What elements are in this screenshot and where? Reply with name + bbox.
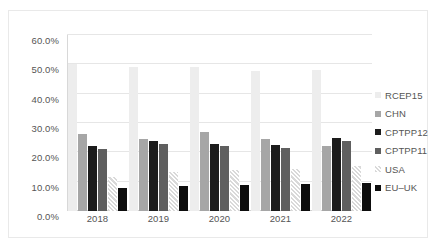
legend-label: CHN (385, 108, 406, 119)
legend-item-chn[interactable]: CHN (375, 106, 437, 122)
x-axis-tick-label-2022: 2022 (311, 213, 372, 231)
legend-item-usa[interactable]: USA (375, 161, 437, 177)
bars (311, 35, 372, 211)
bar-cptpp12-2019[interactable] (149, 141, 158, 211)
x-axis-tick-label-2020: 2020 (189, 213, 250, 231)
legend-swatch-cptpp12-icon (375, 129, 381, 135)
bar-rcep15-2019[interactable] (129, 67, 138, 211)
legend-swatch-chn-icon (375, 111, 381, 117)
bar-chn-2022[interactable] (322, 146, 331, 211)
bar-chn-2021[interactable] (261, 139, 270, 211)
bar-group-2021 (250, 35, 311, 211)
bar-usa-2022[interactable] (352, 166, 361, 211)
chart-container: 0.0%10.0%20.0%30.0%40.0%50.0%60.0% 20182… (8, 10, 428, 238)
bar-chn-2019[interactable] (139, 139, 148, 211)
x-axis-tick-labels: 20182019202020212022 (67, 213, 372, 231)
bar-cptpp12-2020[interactable] (210, 144, 219, 211)
legend-swatch-euuk-icon (375, 185, 381, 191)
legend-label: USA (385, 164, 405, 175)
bar-group-2020 (189, 35, 250, 211)
bar-euuk-2020[interactable] (240, 185, 249, 211)
legend-item-euuk[interactable]: EU–UK (375, 180, 437, 196)
plot-area (67, 35, 372, 211)
legend-label: RCEP15 (385, 90, 423, 101)
bar-usa-2019[interactable] (169, 172, 178, 211)
bar-cptpp12-2022[interactable] (332, 138, 341, 211)
bar-rcep15-2022[interactable] (312, 70, 321, 211)
bar-euuk-2019[interactable] (179, 186, 188, 211)
legend-swatch-usa-icon (375, 166, 381, 172)
bar-group-2022 (311, 35, 372, 211)
x-axis-tick-label-2018: 2018 (67, 213, 128, 231)
bar-cptpp11-2019[interactable] (159, 144, 168, 211)
bar-euuk-2021[interactable] (301, 184, 310, 211)
bar-cptpp11-2020[interactable] (220, 146, 229, 211)
legend-item-cptpp11[interactable]: CPTPP11 (375, 143, 437, 159)
bar-cptpp11-2018[interactable] (98, 149, 107, 211)
legend-label: EU–UK (385, 182, 417, 193)
y-axis-tick-labels: 0.0%10.0%20.0%30.0%40.0%50.0%60.0% (9, 35, 65, 211)
bar-rcep15-2018[interactable] (68, 64, 77, 211)
bars (67, 35, 128, 211)
legend-label: CPTPP11 (385, 145, 427, 156)
bars (128, 35, 189, 211)
bar-usa-2021[interactable] (291, 169, 300, 211)
bar-euuk-2018[interactable] (118, 188, 127, 211)
bar-rcep15-2021[interactable] (251, 71, 260, 211)
bar-group-2019 (128, 35, 189, 211)
bar-groups (67, 35, 372, 211)
legend-item-cptpp12[interactable]: CPTPP12 (375, 124, 437, 140)
bar-cptpp11-2021[interactable] (281, 148, 290, 211)
bar-cptpp12-2018[interactable] (88, 146, 97, 211)
bar-usa-2020[interactable] (230, 170, 239, 211)
legend-swatch-cptpp11-icon (375, 148, 381, 154)
legend-item-rcep15[interactable]: RCEP15 (375, 87, 437, 103)
bar-cptpp12-2021[interactable] (271, 145, 280, 211)
legend-swatch-rcep15-icon (375, 92, 381, 98)
bar-euuk-2022[interactable] (362, 183, 371, 211)
x-axis-tick-label-2019: 2019 (128, 213, 189, 231)
chart-legend: RCEP15CHNCPTPP12CPTPP11USAEU–UK (375, 87, 437, 198)
bar-rcep15-2020[interactable] (190, 67, 199, 211)
bar-chn-2018[interactable] (78, 134, 87, 211)
legend-label: CPTPP12 (385, 127, 428, 138)
bar-cptpp11-2022[interactable] (342, 141, 351, 211)
bar-group-2018 (67, 35, 128, 211)
x-axis-tick-label-2021: 2021 (250, 213, 311, 231)
bar-usa-2018[interactable] (108, 177, 117, 211)
bar-chn-2020[interactable] (200, 132, 209, 211)
bars (189, 35, 250, 211)
bars (250, 35, 311, 211)
